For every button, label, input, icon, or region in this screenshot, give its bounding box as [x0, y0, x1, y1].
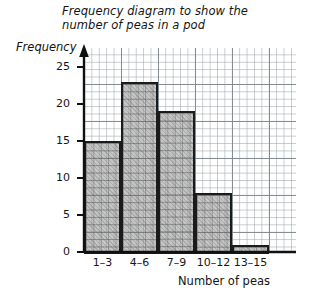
- x-tick-label: 13–15: [234, 256, 268, 269]
- x-tick-label: 1–3: [93, 256, 113, 269]
- y-tick-label: 10: [48, 171, 70, 184]
- y-tick-label: 25: [48, 60, 70, 73]
- y-tick-label: 15: [48, 134, 70, 147]
- frequency-diagram-figure: Frequency diagram to show the number of …: [0, 0, 313, 300]
- x-tick-label: 4–6: [130, 256, 150, 269]
- bar: [84, 141, 121, 254]
- x-tick-label: 7–9: [167, 256, 187, 269]
- y-tick-label: 0: [48, 245, 70, 258]
- bar: [158, 111, 195, 254]
- bars-layer: [0, 0, 313, 300]
- bar: [195, 193, 232, 254]
- y-tick-label: 5: [48, 208, 70, 221]
- bar: [121, 82, 158, 254]
- bar: [232, 245, 269, 254]
- x-tick-label: 10–12: [197, 256, 231, 269]
- y-tick-label: 20: [48, 97, 70, 110]
